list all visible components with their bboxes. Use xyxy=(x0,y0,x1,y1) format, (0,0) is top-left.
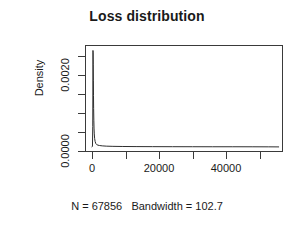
x-tick-mark-1 xyxy=(126,152,127,159)
x-tick-mark-4 xyxy=(226,152,227,159)
density-curve xyxy=(92,50,279,146)
y-tick-mark-1 xyxy=(78,132,85,133)
x-tick-mark-2 xyxy=(159,152,160,159)
x-tick-label-0: 0 xyxy=(72,162,112,174)
y-tick-mark-2 xyxy=(78,113,85,114)
y-tick-mark-5 xyxy=(78,56,85,57)
y-axis-title: Density xyxy=(33,51,45,105)
density-curve-svg xyxy=(86,46,282,151)
x-tick-label-1: 20000 xyxy=(129,162,189,174)
x-tick-mark-5 xyxy=(260,152,261,159)
y-tick-mark-3 xyxy=(78,94,85,95)
chart-caption: N = 67856 Bandwidth = 102.7 xyxy=(0,200,294,212)
y-tick-label-0: 0.0000 xyxy=(59,128,71,174)
x-tick-mark-0 xyxy=(92,152,93,159)
density-plot-figure: Loss distribution 0.0000 0.0020 0 20000 … xyxy=(0,0,294,231)
x-tick-label-2: 40000 xyxy=(196,162,256,174)
y-tick-mark-4 xyxy=(78,75,85,76)
x-tick-mark-3 xyxy=(193,152,194,159)
y-tick-mark-0 xyxy=(78,151,85,152)
plot-area xyxy=(85,45,283,152)
y-tick-label-1: 0.0020 xyxy=(59,52,71,98)
chart-title: Loss distribution xyxy=(0,8,294,24)
